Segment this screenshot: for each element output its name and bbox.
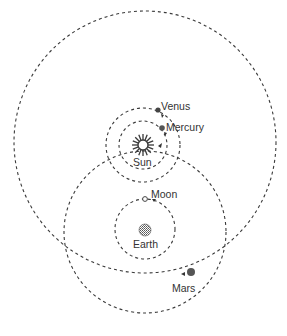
mars-arrow-icon: [181, 272, 185, 276]
moon-icon: [143, 197, 148, 202]
earth-label: Earth: [133, 238, 158, 250]
sun-icon: [132, 134, 154, 156]
mars-label: Mars: [172, 282, 195, 294]
mercury-icon: [159, 125, 165, 131]
venus-arrow-icon: [161, 114, 164, 118]
mars-icon: [187, 268, 195, 276]
sun-label: Sun: [133, 156, 152, 168]
diagram-canvas: Sun Mercury Venus Moon Earth Mars: [0, 0, 287, 336]
tychonic-diagram: Sun Mercury Venus Moon Earth Mars: [0, 0, 287, 336]
mercury-label: Mercury: [166, 121, 205, 133]
venus-label: Venus: [161, 100, 190, 112]
orbit-arrow-icon: [158, 143, 162, 148]
venus-icon: [155, 107, 160, 112]
moon-label: Moon: [151, 188, 177, 200]
earth-icon: [139, 224, 151, 236]
